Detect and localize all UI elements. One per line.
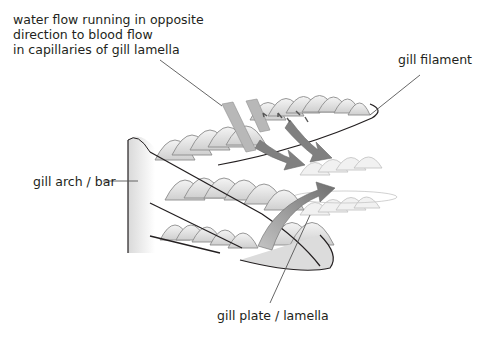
gill-filament-leader xyxy=(370,75,420,115)
water-flow-leader xyxy=(160,60,222,106)
water-flow-label: water flow running in opposite direction… xyxy=(13,12,204,57)
water-flow-label-line-3: in capillaries of gill lamella xyxy=(13,42,204,57)
gill-filament-label: gill filament xyxy=(398,52,472,67)
water-flow-label-line-2: direction to blood flow xyxy=(13,27,204,42)
gill-filament-lower xyxy=(293,157,397,215)
water-flow-label-line-1: water flow running in opposite xyxy=(13,12,204,27)
gill-plate-label: gill plate / lamella xyxy=(217,308,329,323)
gill-arch xyxy=(128,136,155,253)
gill-arch-label: gill arch / bar xyxy=(33,174,116,189)
